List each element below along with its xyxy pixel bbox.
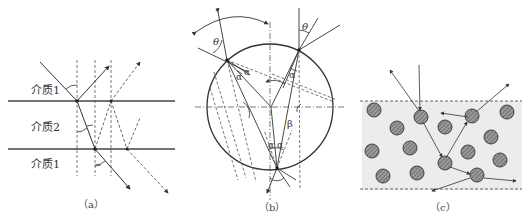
label-alpha-left-2: α (244, 67, 250, 77)
label-beta: β (287, 118, 293, 129)
caption-c: （c） (430, 202, 456, 213)
axis-lines (195, 22, 344, 200)
angle-arc-refraction (77, 128, 87, 132)
transmitted-ray (95, 149, 130, 189)
angle-arc-incidence (66, 85, 77, 89)
panel-c: （c） (360, 65, 522, 213)
dashed-rays (210, 50, 337, 190)
angle-arc-transmission (95, 161, 105, 165)
caption-b: （b） (259, 202, 285, 213)
label-medium-bottom: 介质1 (31, 158, 60, 171)
reflected-ray (77, 66, 109, 101)
label-alpha-bottom-1: α (268, 140, 274, 150)
panel-b: θ θ α α α α α β （b） (195, 8, 344, 213)
rotation-arc (196, 17, 268, 32)
normal-lines (77, 60, 111, 176)
multiple-reflections (95, 62, 168, 193)
label-medium-middle: 介质2 (31, 121, 60, 134)
panel-a: 介质1 介质2 介质1 （a） (8, 60, 175, 210)
figure-canvas: 介质1 介质2 介质1 （a） (0, 0, 526, 216)
label-theta-right: θ (302, 21, 308, 32)
label-theta-left: θ (213, 36, 219, 47)
caption-a: （a） (78, 199, 104, 210)
label-alpha-right: α (289, 70, 295, 80)
label-medium-top: 介质1 (31, 84, 60, 97)
label-alpha-left-1: α (236, 72, 242, 82)
label-alpha-bottom-2: α (277, 140, 283, 150)
